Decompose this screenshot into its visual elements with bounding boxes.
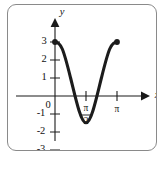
pi-over-2-numerator: π (84, 103, 89, 113)
x-axis-name-label: x (154, 89, 157, 100)
y-tick-label-neg3: -3 (37, 143, 46, 151)
graph-plot: 3 2 1 -1 -2 -3 0 π 2 π x y (8, 5, 157, 151)
origin-label: 0 (45, 99, 50, 110)
y-axis-arrow-icon (51, 18, 60, 27)
y-tick-label-neg1: -1 (37, 107, 46, 118)
figure-panel: 3 2 1 -1 -2 -3 0 π 2 π x y (7, 4, 157, 151)
x-tick-label-pi: π (115, 104, 120, 114)
y-tick-label-neg2: -2 (37, 125, 46, 136)
y-tick-label-1: 1 (41, 71, 46, 82)
x-axis-arrow-icon (141, 92, 150, 101)
y-axis-name-label: y (59, 6, 65, 17)
curve-endpoint-left-dot (52, 39, 58, 45)
y-tick-label-2: 2 (41, 53, 46, 64)
curve-endpoint-right-dot (114, 39, 120, 45)
y-tick-label-3: 3 (41, 35, 46, 46)
y-axis (51, 18, 60, 141)
x-axis (16, 92, 150, 101)
